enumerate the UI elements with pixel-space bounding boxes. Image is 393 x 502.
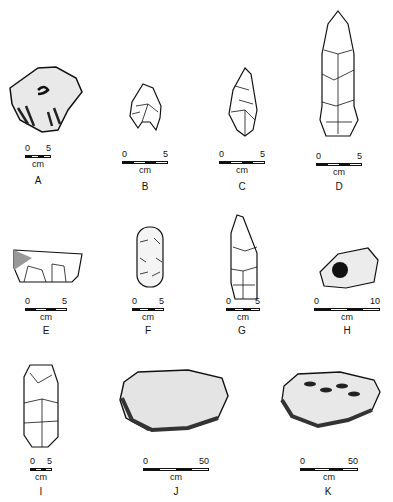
scale-min: 0: [25, 297, 30, 306]
scale-min: 0: [219, 150, 224, 159]
artifact-c-point-drawing: [227, 66, 263, 138]
scale-bar: [219, 161, 265, 164]
scale-max: 5: [62, 297, 67, 306]
label-a: A: [28, 175, 48, 186]
scale-bar: [30, 468, 52, 471]
scale-min: 0: [30, 457, 35, 466]
label-k: K: [318, 486, 338, 497]
scale-unit: cm: [30, 473, 52, 482]
scale-bar: [25, 155, 51, 158]
artifact-a-stone-drawing: [8, 64, 78, 134]
artifact-h-perforated-stone-drawing: [316, 246, 382, 290]
label-h: H: [337, 325, 357, 336]
artifact-g-blade-drawing: [229, 213, 259, 303]
scale-max: 5: [260, 150, 265, 159]
label-b: B: [135, 181, 155, 192]
scale-min: 0: [122, 150, 127, 159]
scale-bar: [143, 468, 209, 471]
label-f: F: [138, 325, 158, 336]
scale-max: 50: [348, 457, 358, 466]
scale-unit: cm: [122, 166, 168, 175]
artifact-i-tool-drawing: [22, 363, 60, 449]
scale-min: 0: [300, 457, 305, 466]
artifact-e-tool-drawing: [12, 248, 84, 284]
scale-bar: [316, 163, 362, 166]
scale-unit: cm: [219, 166, 265, 175]
artifact-j-grinding-stone-drawing: [118, 368, 230, 436]
scale-unit: cm: [300, 473, 358, 482]
scale-max: 5: [255, 297, 260, 306]
scale-min: 0: [316, 152, 321, 161]
artifact-d-point-drawing: [318, 10, 360, 138]
scale-unit: cm: [25, 313, 67, 322]
artifact-k-cupstone-drawing: [280, 370, 384, 430]
scale-max: 5: [46, 144, 51, 153]
scale-min: 0: [132, 297, 137, 306]
scale-max: 10: [370, 297, 380, 306]
label-c: C: [232, 181, 252, 192]
scale-unit: cm: [316, 168, 362, 177]
scale-max: 5: [159, 297, 164, 306]
scale-min: 0: [25, 144, 30, 153]
scale-max: 50: [199, 457, 209, 466]
scale-bar: [226, 308, 260, 311]
scale-unit: cm: [226, 313, 260, 322]
label-i: I: [31, 486, 51, 497]
scale-bar: [122, 161, 168, 164]
scale-min: 0: [314, 297, 319, 306]
scale-max: 5: [357, 152, 362, 161]
label-j: J: [166, 486, 186, 497]
scale-min: 0: [143, 457, 148, 466]
scale-bar: [25, 308, 67, 311]
scale-unit: cm: [132, 313, 164, 322]
artifact-b-point-drawing: [128, 82, 168, 132]
scale-unit: cm: [143, 473, 209, 482]
scale-unit: cm: [314, 313, 380, 322]
scale-unit: cm: [25, 160, 51, 169]
scale-bar: [132, 308, 164, 311]
scale-bar: [300, 468, 358, 471]
label-g: G: [232, 325, 252, 336]
label-d: D: [329, 181, 349, 192]
scale-max: 5: [47, 457, 52, 466]
label-e: E: [36, 325, 56, 336]
scale-bar: [314, 308, 380, 311]
scale-min: 0: [226, 297, 231, 306]
scale-max: 5: [163, 150, 168, 159]
artifact-f-tool-drawing: [136, 226, 164, 288]
